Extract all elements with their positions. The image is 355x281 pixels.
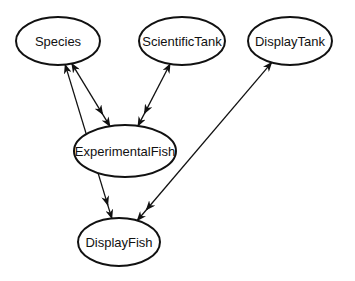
node-label: DisplayTank <box>255 34 326 49</box>
diagram-canvas: SpeciesScientificTankDisplayTankExperime… <box>0 0 355 281</box>
node-label: ExperimentalFish <box>75 144 175 159</box>
edge-scientific-tank-to-experimental-fish <box>138 64 170 126</box>
node-label: ScientificTank <box>142 34 222 49</box>
node-label: DisplayFish <box>85 235 152 250</box>
node-scientific-tank[interactable]: ScientificTank <box>139 17 225 65</box>
edge-arrowhead-icon <box>144 112 145 114</box>
diagram-svg: SpeciesScientificTankDisplayTankExperime… <box>0 0 355 281</box>
node-species[interactable]: Species <box>16 17 100 65</box>
edge-species-to-experimental-fish <box>72 64 110 127</box>
edge-arrowhead-icon <box>102 113 103 115</box>
edge-arrowhead-icon <box>107 203 108 205</box>
node-display-fish[interactable]: DisplayFish <box>78 218 160 266</box>
nodes-layer: SpeciesScientificTankDisplayTankExperime… <box>16 17 332 266</box>
node-display-tank[interactable]: DisplayTank <box>248 17 332 65</box>
node-label: Species <box>35 34 82 49</box>
edge-arrowhead-icon <box>146 208 147 210</box>
node-experimental-fish[interactable]: ExperimentalFish <box>74 125 176 177</box>
